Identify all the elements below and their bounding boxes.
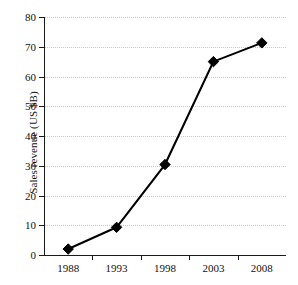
y-tick-label: 80 <box>25 11 36 23</box>
line-chart: Sales revenue (US $B) 010203040506070801… <box>0 0 298 285</box>
y-tick-mark <box>39 255 44 256</box>
data-point-marker <box>63 244 73 254</box>
y-tick-label: 60 <box>25 71 36 83</box>
x-tick-mark <box>238 255 239 260</box>
y-tick-label: 10 <box>25 219 36 231</box>
x-tick-mark <box>92 255 93 260</box>
x-tick-label: 1998 <box>154 262 176 274</box>
x-tick-mark <box>141 255 142 260</box>
x-tick-mark <box>189 255 190 260</box>
y-tick-label: 50 <box>25 100 36 112</box>
x-tick-label: 1993 <box>106 262 128 274</box>
y-tick-label: 0 <box>31 249 37 261</box>
series-markers <box>63 38 267 255</box>
y-tick-label: 20 <box>25 190 36 202</box>
y-tick-label: 30 <box>25 160 36 172</box>
x-tick-label: 1988 <box>57 262 79 274</box>
plot-area: 0102030405060708019881993199820032008 <box>44 17 286 255</box>
x-tick-label: 2003 <box>202 262 224 274</box>
x-tick-label: 2008 <box>251 262 273 274</box>
y-tick-label: 70 <box>25 41 36 53</box>
series-line-sales-revenue <box>68 43 262 249</box>
series-layer <box>44 17 286 255</box>
data-point-marker <box>208 56 218 66</box>
data-point-marker <box>257 38 267 48</box>
y-tick-label: 40 <box>25 130 36 142</box>
x-axis-line <box>44 255 286 256</box>
